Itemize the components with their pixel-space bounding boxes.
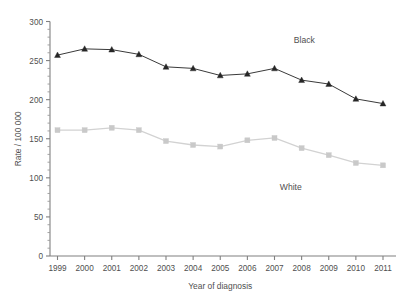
x-tick-label: 2008 — [293, 264, 312, 273]
data-point-black-2008[interactable]: Black 2008: 225 — [299, 77, 305, 83]
data-point-white-2010[interactable]: White 2010: 119 — [353, 160, 358, 165]
x-tick-label: 2004 — [184, 264, 203, 273]
data-point-white-2000[interactable]: White 2000: 161 — [82, 128, 87, 133]
x-tick-group: 1999200020012002200320042005200620072008… — [48, 256, 392, 273]
series-white: White 1999: 161White 2000: 161White 2001… — [55, 125, 386, 168]
chart-container: 0501001502002503001999200020012002200320… — [0, 0, 404, 306]
y-tick-label: 150 — [29, 135, 43, 144]
y-tick-label: 200 — [29, 96, 43, 105]
data-point-white-2001[interactable]: White 2001: 164 — [109, 125, 114, 130]
data-point-black-2007[interactable]: Black 2007: 240 — [272, 65, 278, 71]
y-tick-label: 250 — [29, 57, 43, 66]
data-point-white-1999[interactable]: White 1999: 161 — [55, 128, 60, 133]
x-tick-label: 2009 — [320, 264, 339, 273]
data-point-black-2010[interactable]: Black 2010: 201 — [353, 96, 359, 102]
y-axis-title: Rate / 100 000 — [13, 111, 23, 166]
x-tick-label: 2010 — [347, 264, 366, 273]
x-tick-label: 1999 — [48, 264, 67, 273]
x-tick-label: 2011 — [374, 264, 392, 273]
data-point-white-2005[interactable]: White 2005: 140 — [218, 144, 223, 149]
series-label-white: White — [280, 182, 302, 192]
axes-group — [50, 22, 396, 257]
x-tick-label: 2002 — [130, 264, 149, 273]
data-point-white-2007[interactable]: White 2007: 151 — [272, 135, 277, 140]
data-point-white-2008[interactable]: White 2008: 138 — [299, 146, 304, 151]
series-black: Black 1999: 257Black 2000: 265Black 2001… — [55, 46, 386, 106]
x-tick-label: 2000 — [76, 264, 95, 273]
x-tick-label: 2003 — [157, 264, 176, 273]
y-tick-label: 0 — [38, 252, 43, 261]
x-tick-label: 2001 — [103, 264, 122, 273]
y-tick-label: 100 — [29, 174, 43, 183]
series-label-black: Black — [294, 35, 316, 45]
x-tick-label: 2005 — [211, 264, 230, 273]
y-tick-label: 50 — [34, 213, 44, 222]
x-tick-label: 2007 — [265, 264, 284, 273]
data-point-white-2004[interactable]: White 2004: 142 — [191, 143, 196, 148]
data-point-white-2006[interactable]: White 2006: 148 — [245, 138, 250, 143]
x-tick-label: 2006 — [238, 264, 257, 273]
data-point-white-2002[interactable]: White 2002: 161 — [136, 128, 141, 133]
x-axis-title: Year of diagnosis — [188, 281, 252, 291]
y-tick-group: 050100150200250300 — [29, 18, 50, 262]
y-tick-label: 300 — [29, 18, 43, 27]
data-point-white-2009[interactable]: White 2009: 129 — [326, 153, 331, 158]
data-point-white-2003[interactable]: White 2003: 147 — [164, 139, 169, 144]
data-point-white-2011[interactable]: White 2011: 116 — [381, 163, 386, 168]
line-chart: 0501001502002503001999200020012002200320… — [0, 0, 404, 306]
